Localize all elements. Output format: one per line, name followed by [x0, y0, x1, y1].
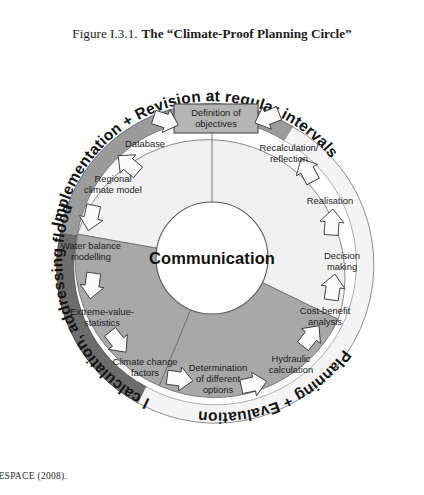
node-regional-climate-model-line1: Regional: [94, 173, 131, 184]
objective-box-line2: objectives: [195, 118, 237, 129]
node-hydraulic-line1: Hydraulic: [271, 353, 310, 364]
figure-number: Figure I.3.1.: [72, 26, 137, 41]
node-realisation-line1: Realisation: [307, 195, 353, 206]
node-cost-benefit-line2: analysis: [308, 316, 342, 327]
node-decision-making-line1: Decision: [324, 250, 360, 261]
climate-proof-planning-circle-diagram: Communication Implementation + Revision …: [8, 54, 416, 460]
node-extreme-value-line1: Extreme-value-: [70, 306, 134, 317]
node-hydraulic-calculation: Hydraulic calculation: [269, 353, 313, 375]
source-caption: e:ESPACE (2008).: [0, 471, 67, 481]
node-decision-making-line2: making: [327, 261, 357, 272]
figure-name: The “Climate-Proof Planning Circle”: [142, 26, 352, 41]
node-determination-line1: Determination: [189, 362, 247, 373]
node-climate-change-line1: Climate change: [112, 356, 177, 367]
node-hydraulic-line2: calculation: [269, 364, 313, 375]
node-cost-benefit-line1: Cost-benefit: [300, 305, 351, 316]
node-climate-change-line2: factors: [131, 367, 159, 378]
node-database-line1: Database: [125, 138, 165, 149]
definition-of-objectives-box[interactable]: Definition of objectives: [174, 104, 258, 133]
objective-box-line1: Definition of: [191, 107, 241, 118]
node-extreme-value-line2: statistics: [84, 317, 120, 328]
node-realisation: Realisation: [307, 195, 353, 206]
node-recalculation-line1: Recalculation/: [260, 142, 319, 153]
node-water-balance-line2: modelling: [71, 251, 111, 262]
node-database: Database: [125, 138, 165, 149]
center-label: Communication: [149, 249, 275, 267]
page-title: Figure I.3.1.The “Climate-Proof Planning…: [0, 26, 424, 42]
node-determination-line3: options: [203, 384, 234, 395]
node-recalculation-line2: reflection: [270, 153, 308, 164]
node-regional-climate-model-line2: climate model: [84, 184, 142, 195]
source-text: ESPACE (2008).: [0, 471, 67, 481]
node-water-balance-line1: Water balance: [61, 240, 121, 251]
node-determination-line2: of different: [196, 373, 241, 384]
node-decision-making: Decision making: [324, 250, 360, 272]
